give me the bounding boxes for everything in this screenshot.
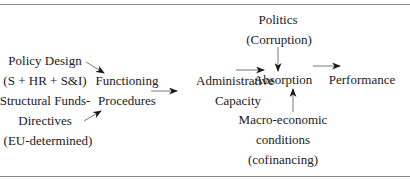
arrows-layer (0, 0, 410, 180)
arrow-policy-to-functioning (86, 62, 104, 73)
arrow-directives-to-procedures (84, 111, 101, 121)
